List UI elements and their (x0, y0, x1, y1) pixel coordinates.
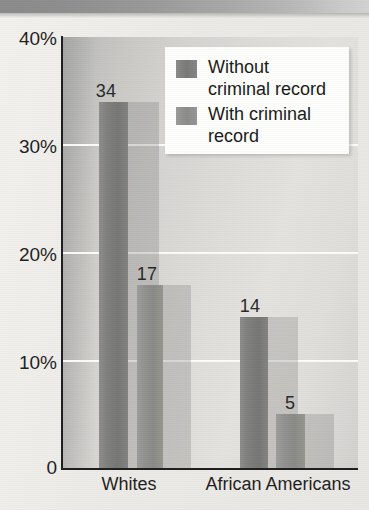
bar-shadow-aa-with (305, 414, 334, 468)
bar-african-americans-without-criminal-record (240, 317, 268, 468)
chart-screenshot: 34 17 14 5 40% 30% 20% 10% 0 Whites Afri… (0, 0, 369, 510)
y-tick-label-30: 30% (1, 136, 57, 158)
legend-label-with-criminal-record: With criminal record (208, 103, 311, 147)
with-criminal-record-swatch (176, 107, 197, 125)
bar-whites-without-criminal-record (99, 102, 128, 468)
x-axis-label-african-americans: African Americans (188, 474, 368, 495)
scan-top-band (0, 0, 369, 13)
chart-legend: Without criminal record With criminal re… (165, 47, 349, 154)
bar-african-americans-with-criminal-record (276, 414, 305, 468)
legend-entry-with-criminal-record: With criminal record (176, 103, 311, 147)
y-tick-label-0: 0 (1, 457, 57, 479)
y-tick-label-20: 20% (1, 244, 57, 266)
legend-label-line-1: Without (208, 57, 269, 77)
bar-value-whites-without: 34 (84, 81, 128, 102)
bar-value-whites-with: 17 (125, 264, 169, 285)
legend-label-line-2: record (208, 126, 259, 146)
bar-shadow-whites-with (163, 285, 191, 468)
scan-top-band-shadow (0, 13, 369, 18)
legend-label-line-2: criminal record (208, 79, 326, 99)
x-axis-line (61, 468, 358, 470)
without-criminal-record-swatch (176, 60, 197, 78)
y-tick-label-40: 40% (1, 28, 57, 50)
legend-label-line-1: With criminal (208, 104, 311, 124)
x-axis-label-whites: Whites (74, 474, 184, 495)
legend-label-without-criminal-record: Without criminal record (208, 56, 326, 100)
y-tick-label-10: 10% (1, 352, 57, 374)
y-axis-line (61, 36, 63, 470)
bar-value-aa-with: 5 (268, 393, 312, 414)
bar-value-aa-without: 14 (228, 296, 272, 317)
bar-whites-with-criminal-record (137, 285, 163, 468)
legend-entry-without-criminal-record: Without criminal record (176, 56, 326, 100)
